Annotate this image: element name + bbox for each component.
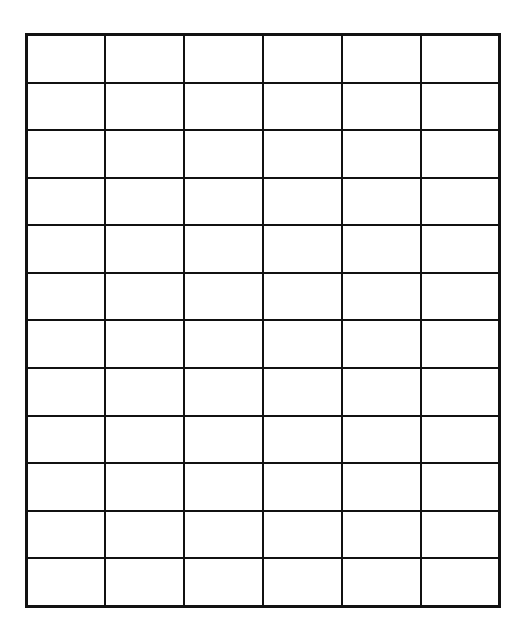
table-row	[27, 320, 500, 368]
grid-cell	[263, 35, 342, 83]
grid-cell	[342, 558, 421, 606]
grid-cell	[27, 416, 106, 464]
grid-cell	[105, 511, 184, 559]
grid-cell	[421, 320, 500, 368]
grid-cell	[342, 35, 421, 83]
grid-cell	[184, 130, 263, 178]
grid-cell	[342, 178, 421, 226]
grid-cell	[421, 368, 500, 416]
grid-cell	[184, 35, 263, 83]
grid-cell	[342, 511, 421, 559]
table-row	[27, 178, 500, 226]
grid-cell	[27, 273, 106, 321]
grid-cell	[342, 416, 421, 464]
grid-cell	[27, 130, 106, 178]
grid-cell	[105, 273, 184, 321]
grid-cell	[184, 273, 263, 321]
grid-cell	[184, 225, 263, 273]
grid-cell	[263, 416, 342, 464]
grid-cell	[105, 368, 184, 416]
grid-cell	[27, 320, 106, 368]
grid-cell	[105, 83, 184, 131]
grid-cell	[342, 368, 421, 416]
grid-cell	[263, 463, 342, 511]
table-row	[27, 130, 500, 178]
grid-cell	[263, 511, 342, 559]
empty-grid-table	[25, 33, 501, 608]
grid-cell	[421, 178, 500, 226]
grid-cell	[342, 320, 421, 368]
grid-cell	[342, 130, 421, 178]
grid-cell	[27, 463, 106, 511]
grid-cell	[421, 83, 500, 131]
table-row	[27, 416, 500, 464]
grid-cell	[342, 225, 421, 273]
grid-cell	[421, 35, 500, 83]
grid-cell	[421, 416, 500, 464]
grid-cell	[105, 130, 184, 178]
grid-cell	[27, 558, 106, 606]
grid-cell	[105, 178, 184, 226]
grid-cell	[263, 178, 342, 226]
grid-cell	[105, 225, 184, 273]
table-row	[27, 83, 500, 131]
grid-cell	[342, 463, 421, 511]
grid-cell	[421, 511, 500, 559]
table-row	[27, 558, 500, 606]
grid-cell	[184, 511, 263, 559]
grid-cell	[105, 416, 184, 464]
grid-cell	[342, 83, 421, 131]
table-row	[27, 463, 500, 511]
grid-cell	[263, 225, 342, 273]
grid-cell	[184, 558, 263, 606]
grid-cell	[421, 273, 500, 321]
grid-cell	[27, 178, 106, 226]
grid-cell	[105, 463, 184, 511]
grid-cell	[27, 225, 106, 273]
grid-cell	[263, 273, 342, 321]
grid-cell	[342, 273, 421, 321]
grid-cell	[263, 368, 342, 416]
grid-cell	[263, 130, 342, 178]
table-row	[27, 511, 500, 559]
grid-cell	[421, 130, 500, 178]
grid-cell	[105, 35, 184, 83]
grid-cell	[27, 35, 106, 83]
grid-cell	[27, 83, 106, 131]
grid-cell	[263, 320, 342, 368]
grid-cell	[184, 368, 263, 416]
grid-cell	[27, 511, 106, 559]
table-row	[27, 225, 500, 273]
table-row	[27, 35, 500, 83]
grid-cell	[27, 368, 106, 416]
grid-cell	[421, 225, 500, 273]
grid-cell	[184, 463, 263, 511]
grid-cell	[184, 178, 263, 226]
grid-cell	[105, 320, 184, 368]
grid-cell	[184, 416, 263, 464]
grid-cell	[263, 83, 342, 131]
grid-cell	[421, 558, 500, 606]
grid-cell	[105, 558, 184, 606]
table-row	[27, 273, 500, 321]
grid-body	[27, 35, 500, 607]
grid-cell	[421, 463, 500, 511]
table-row	[27, 368, 500, 416]
grid-cell	[184, 83, 263, 131]
grid-cell	[184, 320, 263, 368]
grid-cell	[263, 558, 342, 606]
